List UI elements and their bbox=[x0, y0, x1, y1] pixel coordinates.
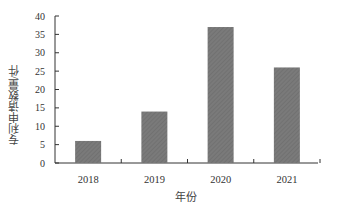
y-tick-label: 10 bbox=[35, 121, 45, 132]
y-axis-label: 专利申请数量/件 bbox=[6, 60, 26, 150]
y-tick-label: 40 bbox=[35, 11, 45, 22]
y-tick-label: 20 bbox=[35, 84, 45, 95]
x-tick-label: 2019 bbox=[144, 174, 165, 185]
y-tick-label: 0 bbox=[40, 158, 45, 169]
y-tick-label: 15 bbox=[35, 102, 45, 113]
x-axis-label: 年份 bbox=[175, 188, 197, 204]
bar-2020 bbox=[208, 27, 234, 163]
y-tick-label: 30 bbox=[35, 47, 45, 58]
bar-2018 bbox=[75, 141, 101, 163]
x-tick-label: 2021 bbox=[276, 174, 297, 185]
y-tick-label: 25 bbox=[35, 66, 45, 77]
chart-canvas: 05101520253035402018201920202021 bbox=[0, 0, 338, 212]
x-tick-label: 2018 bbox=[78, 174, 99, 185]
bar-2019 bbox=[141, 112, 167, 163]
bar-2021 bbox=[274, 67, 300, 163]
y-tick-label: 35 bbox=[35, 29, 45, 40]
x-tick-label: 2020 bbox=[210, 174, 231, 185]
y-tick-label: 5 bbox=[40, 139, 45, 150]
